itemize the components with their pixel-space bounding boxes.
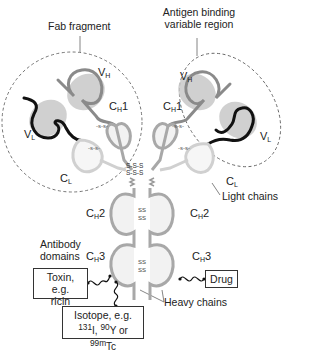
- isotope-box: Isotope, e.g. 131I, 90Y or 99mTc: [62, 306, 144, 339]
- cl-right-label: CL: [226, 175, 238, 191]
- light-chains-label: Light chains: [222, 190, 278, 202]
- hinge-disulfide: S-S-S: [126, 162, 144, 169]
- ch3-right-label: CH3: [192, 250, 211, 266]
- fab-fragment-label: Fab fragment: [48, 20, 110, 32]
- heavy-chains-label: Heavy chains: [164, 296, 227, 308]
- toxin-box: Toxin, e.g. ricin: [33, 268, 88, 299]
- antigen-binding-label: Antigen binding variable region: [160, 6, 238, 30]
- vl-left-label: VL: [24, 128, 35, 144]
- isotope-linker: [114, 282, 117, 306]
- ch1-right-label: CH1: [163, 100, 182, 116]
- toxin-linker: [88, 276, 110, 285]
- ch2-right-label: CH2: [190, 207, 209, 223]
- isotope-examples: 131I, 90Y or 99mTc: [66, 321, 140, 354]
- svg-text:S: S: [142, 215, 146, 221]
- ch2-left-label: CH2: [86, 207, 105, 223]
- drug-box: Drug: [205, 270, 238, 288]
- svg-text:-s-s-: -s-s-: [88, 145, 100, 151]
- svg-text:S-S-S: S-S-S: [126, 169, 144, 176]
- svg-text:S: S: [142, 267, 146, 273]
- svg-text:-s-s-: -s-s-: [172, 123, 184, 129]
- svg-text:S: S: [142, 207, 146, 213]
- vh-right-label: VH: [180, 70, 192, 86]
- ch2-left-chain: [111, 188, 134, 300]
- svg-text:-s-s-: -s-s-: [96, 123, 108, 129]
- vl-right-label: VL: [260, 130, 271, 146]
- ch2-right-chain: [150, 188, 173, 300]
- ch3-left-label: CH3: [86, 250, 105, 266]
- svg-text:S: S: [142, 259, 146, 265]
- antibody-domains-label: Antibody domains: [40, 238, 81, 262]
- drug-linker: [180, 277, 204, 281]
- ch1-left-label: CH1: [109, 100, 128, 116]
- vh-left-label: VH: [98, 66, 110, 82]
- svg-text:-s-s-: -s-s-: [178, 145, 190, 151]
- cl-left-label: CL: [60, 172, 72, 188]
